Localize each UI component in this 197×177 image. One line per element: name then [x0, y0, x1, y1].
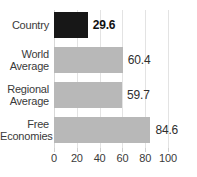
- bar-row: 84.6: [54, 117, 168, 143]
- bar-row: 60.4: [54, 47, 168, 73]
- bar-value-label: 84.6: [155, 123, 178, 137]
- category-label-line: Free: [0, 118, 49, 130]
- category-label-line: Country: [0, 19, 49, 31]
- bar-row: 29.6: [54, 12, 168, 38]
- bar: [54, 117, 150, 143]
- category-label-line: Regional: [0, 83, 49, 95]
- bar: [54, 47, 123, 73]
- plot-area: 29.660.459.784.6: [54, 10, 168, 148]
- value-axis: 020406080100: [54, 148, 168, 168]
- bar-value-label: 29.6: [93, 18, 116, 32]
- bar-row: 59.7: [54, 82, 168, 108]
- axis-tick-label: 80: [139, 152, 151, 164]
- category-label-line: World: [0, 48, 49, 60]
- category-label: RegionalAverage: [0, 83, 49, 107]
- axis-tick-label: 60: [116, 152, 128, 164]
- category-label-line: Average: [0, 95, 49, 107]
- axis-tick-label: 20: [71, 152, 83, 164]
- bar-value-label: 60.4: [128, 53, 151, 67]
- category-label-line: Economies: [0, 130, 49, 142]
- bar-value-label: 59.7: [127, 88, 150, 102]
- category-label: Country: [0, 19, 49, 31]
- axis-tick-label: 0: [51, 152, 57, 164]
- category-label-line: Average: [0, 60, 49, 72]
- bar-chart: CountryWorldAverageRegionalAverageFreeEc…: [0, 0, 197, 177]
- axis-tick-label: 40: [94, 152, 106, 164]
- bar: [54, 12, 88, 38]
- category-label: FreeEconomies: [0, 118, 49, 142]
- category-axis: CountryWorldAverageRegionalAverageFreeEc…: [0, 10, 49, 148]
- category-label: WorldAverage: [0, 48, 49, 72]
- bar: [54, 82, 122, 108]
- axis-tick-label: 100: [159, 152, 177, 164]
